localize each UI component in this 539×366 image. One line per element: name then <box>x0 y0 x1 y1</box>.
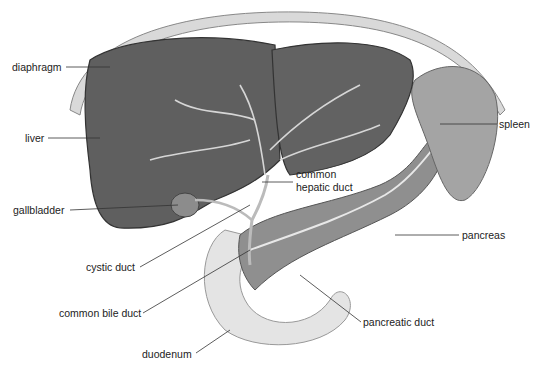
label-common-hepatic-duct-line1: common <box>296 168 336 180</box>
label-gallbladder: gallbladder <box>13 204 64 216</box>
label-common-bile-duct: common bile duct <box>59 307 141 319</box>
label-liver: liver <box>25 132 44 144</box>
label-pancreatic-duct: pancreatic duct <box>363 316 434 328</box>
label-duodenum: duodenum <box>142 348 192 360</box>
label-diaphragm: diaphragm <box>12 61 62 73</box>
liver-left-lobe <box>272 43 413 175</box>
anatomy-diagram: diaphragm liver gallbladder cystic duct … <box>0 0 539 366</box>
label-common-hepatic-duct-line2: hepatic duct <box>296 181 353 193</box>
label-spleen: spleen <box>499 118 530 130</box>
label-cystic-duct: cystic duct <box>86 261 135 273</box>
label-pancreas: pancreas <box>462 229 505 241</box>
